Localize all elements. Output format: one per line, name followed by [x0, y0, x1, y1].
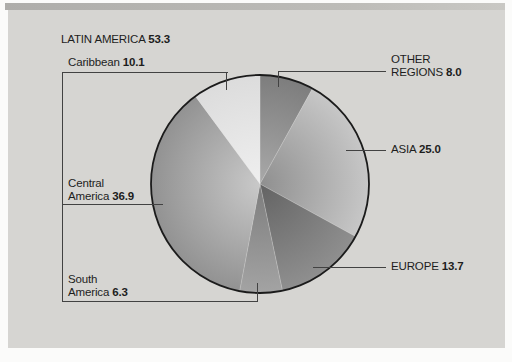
label-other-regions-line1: OTHER	[391, 53, 431, 65]
leader-tick-south-america	[257, 283, 258, 302]
label-caribbean-value: 10.1	[123, 56, 145, 68]
leader-line-caribbean	[62, 72, 228, 73]
label-caribbean: Caribbean 10.1	[68, 56, 145, 69]
label-other-regions-value: 8.0	[446, 66, 462, 78]
label-caribbean-name: Caribbean	[68, 56, 120, 68]
label-asia: ASIA 25.0	[391, 143, 441, 156]
label-south-america-line2: America	[68, 286, 109, 298]
label-asia-name: ASIA	[391, 143, 416, 155]
leader-line-asia	[346, 150, 386, 151]
leader-tick-caribbean	[226, 72, 227, 90]
leader-line-europe	[313, 267, 386, 268]
label-central-america-line2: America	[68, 190, 109, 202]
leader-tick-other-regions	[278, 71, 279, 87]
label-central-america-line1: Central	[68, 177, 104, 189]
label-europe: EUROPE 13.7	[391, 260, 464, 273]
label-south-america-value: 6.3	[112, 286, 128, 298]
label-other-regions: OTHER REGIONS 8.0	[391, 53, 462, 78]
label-latin-america: LATIN AMERICA 53.3	[61, 33, 170, 46]
leader-line-central-america	[62, 204, 163, 205]
leader-bracket-latin-america	[62, 72, 63, 302]
label-europe-name: EUROPE	[391, 260, 439, 272]
label-europe-value: 13.7	[442, 260, 464, 272]
label-latin-america-value: 53.3	[148, 33, 170, 45]
label-central-america-value: 36.9	[112, 190, 134, 202]
label-central-america: Central America 36.9	[68, 177, 134, 202]
label-south-america: South America 6.3	[68, 273, 128, 298]
label-latin-america-name: LATIN AMERICA	[61, 33, 145, 45]
leader-line-south-america	[62, 301, 258, 302]
leader-line-other-regions	[278, 71, 386, 72]
label-south-america-line1: South	[68, 273, 97, 285]
label-asia-value: 25.0	[419, 143, 441, 155]
label-other-regions-line2: REGIONS	[391, 66, 443, 78]
scanned-pie-chart-page: { "figure": { "panel_background": "#d6d5…	[0, 0, 512, 362]
